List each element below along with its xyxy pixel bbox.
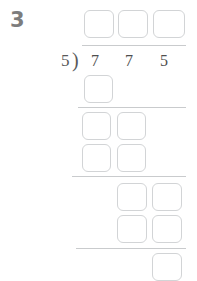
- dividend-digit-hundreds: 7: [88, 53, 102, 69]
- quotient-box-hundreds[interactable]: [84, 10, 114, 38]
- work-box-row4-col1[interactable]: [117, 183, 147, 211]
- division-bar: [82, 45, 186, 46]
- work-box-row3-col1[interactable]: [82, 144, 111, 172]
- quotient-box-ones[interactable]: [153, 10, 185, 38]
- work-box-row4-col2[interactable]: [152, 183, 182, 211]
- problem-number: 3: [10, 10, 25, 31]
- subtraction-rule-1: [78, 107, 186, 108]
- dividend-digit-ones: 5: [157, 53, 171, 69]
- long-division-worksheet: 3 5 ) 7 7 5: [0, 0, 197, 281]
- subtraction-rule-2: [72, 176, 186, 177]
- divisor-value: 5: [61, 52, 70, 69]
- quotient-box-tens[interactable]: [118, 10, 148, 38]
- work-box-row2-col2[interactable]: [117, 112, 146, 140]
- division-bracket-icon: ): [72, 50, 79, 70]
- work-box-row2-col1[interactable]: [82, 112, 111, 140]
- subtraction-rule-3: [76, 248, 186, 249]
- work-box-row1-col1[interactable]: [84, 75, 113, 103]
- work-box-row5-col2[interactable]: [152, 215, 182, 243]
- remainder-box[interactable]: [152, 253, 182, 281]
- work-box-row3-col2[interactable]: [117, 144, 146, 172]
- work-box-row5-col1[interactable]: [117, 215, 147, 243]
- dividend-digit-tens: 7: [122, 53, 136, 69]
